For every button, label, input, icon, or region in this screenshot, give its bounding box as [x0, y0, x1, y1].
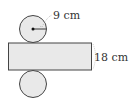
radius-label: 9 cm [53, 9, 81, 22]
cylinder-net-diagram: 9 cm 18 cm [0, 0, 129, 101]
center-point [32, 28, 35, 31]
lateral-rectangle [9, 43, 92, 70]
height-label: 18 cm [94, 51, 129, 64]
bottom-circle [20, 71, 47, 98]
